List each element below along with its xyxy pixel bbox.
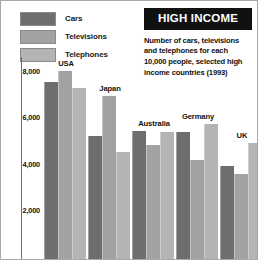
legend-label: Cars (65, 14, 82, 23)
bar-televisions (102, 96, 116, 259)
legend-label: Televisions (65, 32, 107, 41)
chart-container: CarsTelevisionsTelephones HIGH INCOME Nu… (0, 0, 258, 260)
bar-cars (44, 82, 58, 259)
bar-televisions (146, 145, 160, 259)
bar-group: Australia (132, 57, 176, 259)
chart-title: HIGH INCOME (144, 8, 252, 30)
bar-group-label: Australia (138, 119, 170, 128)
bar-group-label: Japan (99, 84, 120, 93)
bar-televisions (190, 160, 204, 259)
bar-televisions (58, 71, 72, 259)
bar-group-label: UK (237, 131, 248, 140)
bar-cars (132, 131, 146, 259)
legend-item: Cars (20, 10, 135, 27)
bar-groups: USAJapanAustraliaGermanyUK (44, 57, 251, 259)
y-axis-tick-label: 4,000 (2, 159, 40, 168)
bar-group: UK (220, 57, 258, 259)
y-axis-tick-label: 2,000 (2, 206, 40, 215)
bar-telephones (160, 132, 174, 259)
bar-telephones (248, 143, 258, 259)
bar-group: Germany (176, 57, 220, 259)
y-axis-line (21, 57, 22, 259)
chart-legend: CarsTelevisionsTelephones (20, 10, 135, 64)
legend-swatch (20, 12, 56, 26)
bar-cars (220, 166, 234, 259)
y-axis-tick-label: 6,000 (2, 113, 40, 122)
plot-area: 8,0006,0004,0002,000 USAJapanAustraliaGe… (21, 57, 251, 259)
bar-group-label: USA (58, 59, 74, 68)
bar-group: USA (44, 57, 88, 259)
bar-group-label: Germany (182, 112, 214, 121)
bar-group: Japan (88, 57, 132, 259)
legend-item: Televisions (20, 28, 135, 45)
bar-telephones (72, 88, 86, 259)
bar-cars (176, 132, 190, 259)
bar-telephones (116, 152, 130, 259)
legend-swatch (20, 30, 56, 44)
y-axis-tick-label: 8,000 (2, 66, 40, 75)
bar-cars (88, 136, 102, 259)
bar-televisions (234, 174, 248, 259)
bar-telephones (204, 124, 218, 259)
